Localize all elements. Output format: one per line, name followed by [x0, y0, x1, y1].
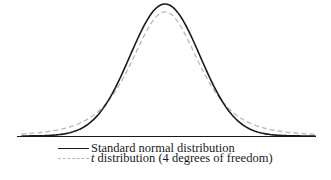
normal-distribution-curve [22, 4, 316, 136]
legend-label-t-text: distribution (4 degrees of freedom) [94, 151, 272, 165]
dashed-line-swatch-icon [58, 158, 89, 159]
legend-item-t: t distribution (4 degrees of freedom) [58, 154, 273, 165]
legend-label-t: t distribution (4 degrees of freedom) [91, 153, 273, 164]
t-distribution-curve [22, 12, 316, 134]
solid-line-swatch-icon [58, 148, 89, 149]
legend: Standard normal distribution t distribut… [58, 143, 273, 164]
